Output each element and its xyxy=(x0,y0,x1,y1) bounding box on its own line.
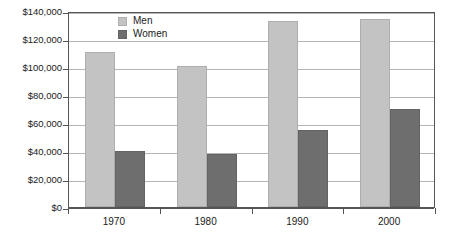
x-axis-label-1980: 1980 xyxy=(195,216,217,227)
x-axis-separator xyxy=(68,208,69,214)
bar-women-1990 xyxy=(298,130,328,207)
y-axis-label: $20,000 xyxy=(28,175,62,185)
chart-legend: MenWomen xyxy=(118,16,167,39)
x-axis-separator xyxy=(343,208,344,214)
bar-chart: $0$20,000$40,000$60,000$80,000$100,000$1… xyxy=(0,0,450,251)
bar-men-1990 xyxy=(268,21,298,207)
x-axis-label-1970: 1970 xyxy=(103,216,125,227)
bars-layer xyxy=(69,13,434,207)
bar-men-2000 xyxy=(360,19,390,207)
legend-swatch-icon xyxy=(118,30,127,39)
legend-item-men[interactable]: Men xyxy=(118,16,167,26)
legend-label: Women xyxy=(133,29,167,39)
bar-women-2000 xyxy=(390,109,420,207)
bar-men-1970 xyxy=(85,52,115,207)
y-axis-label: $120,000 xyxy=(22,35,62,45)
x-axis-separator xyxy=(160,208,161,214)
legend-item-women[interactable]: Women xyxy=(118,29,167,39)
y-axis-label: $40,000 xyxy=(28,147,62,157)
bar-women-1970 xyxy=(115,151,145,207)
legend-label: Men xyxy=(133,16,152,26)
bar-women-1980 xyxy=(207,154,237,207)
plot-area xyxy=(68,12,435,208)
legend-swatch-icon xyxy=(118,17,127,26)
y-axis-label: $80,000 xyxy=(28,91,62,101)
bar-men-1980 xyxy=(177,66,207,207)
y-axis-label: $140,000 xyxy=(22,7,62,17)
x-axis-label-2000: 2000 xyxy=(378,216,400,227)
x-axis-separator xyxy=(435,208,436,214)
x-axis-label-1990: 1990 xyxy=(286,216,308,227)
y-axis-label: $100,000 xyxy=(22,63,62,73)
y-axis-label: $60,000 xyxy=(28,119,62,129)
y-axis-label: $0 xyxy=(51,203,62,213)
x-axis-separator xyxy=(252,208,253,214)
